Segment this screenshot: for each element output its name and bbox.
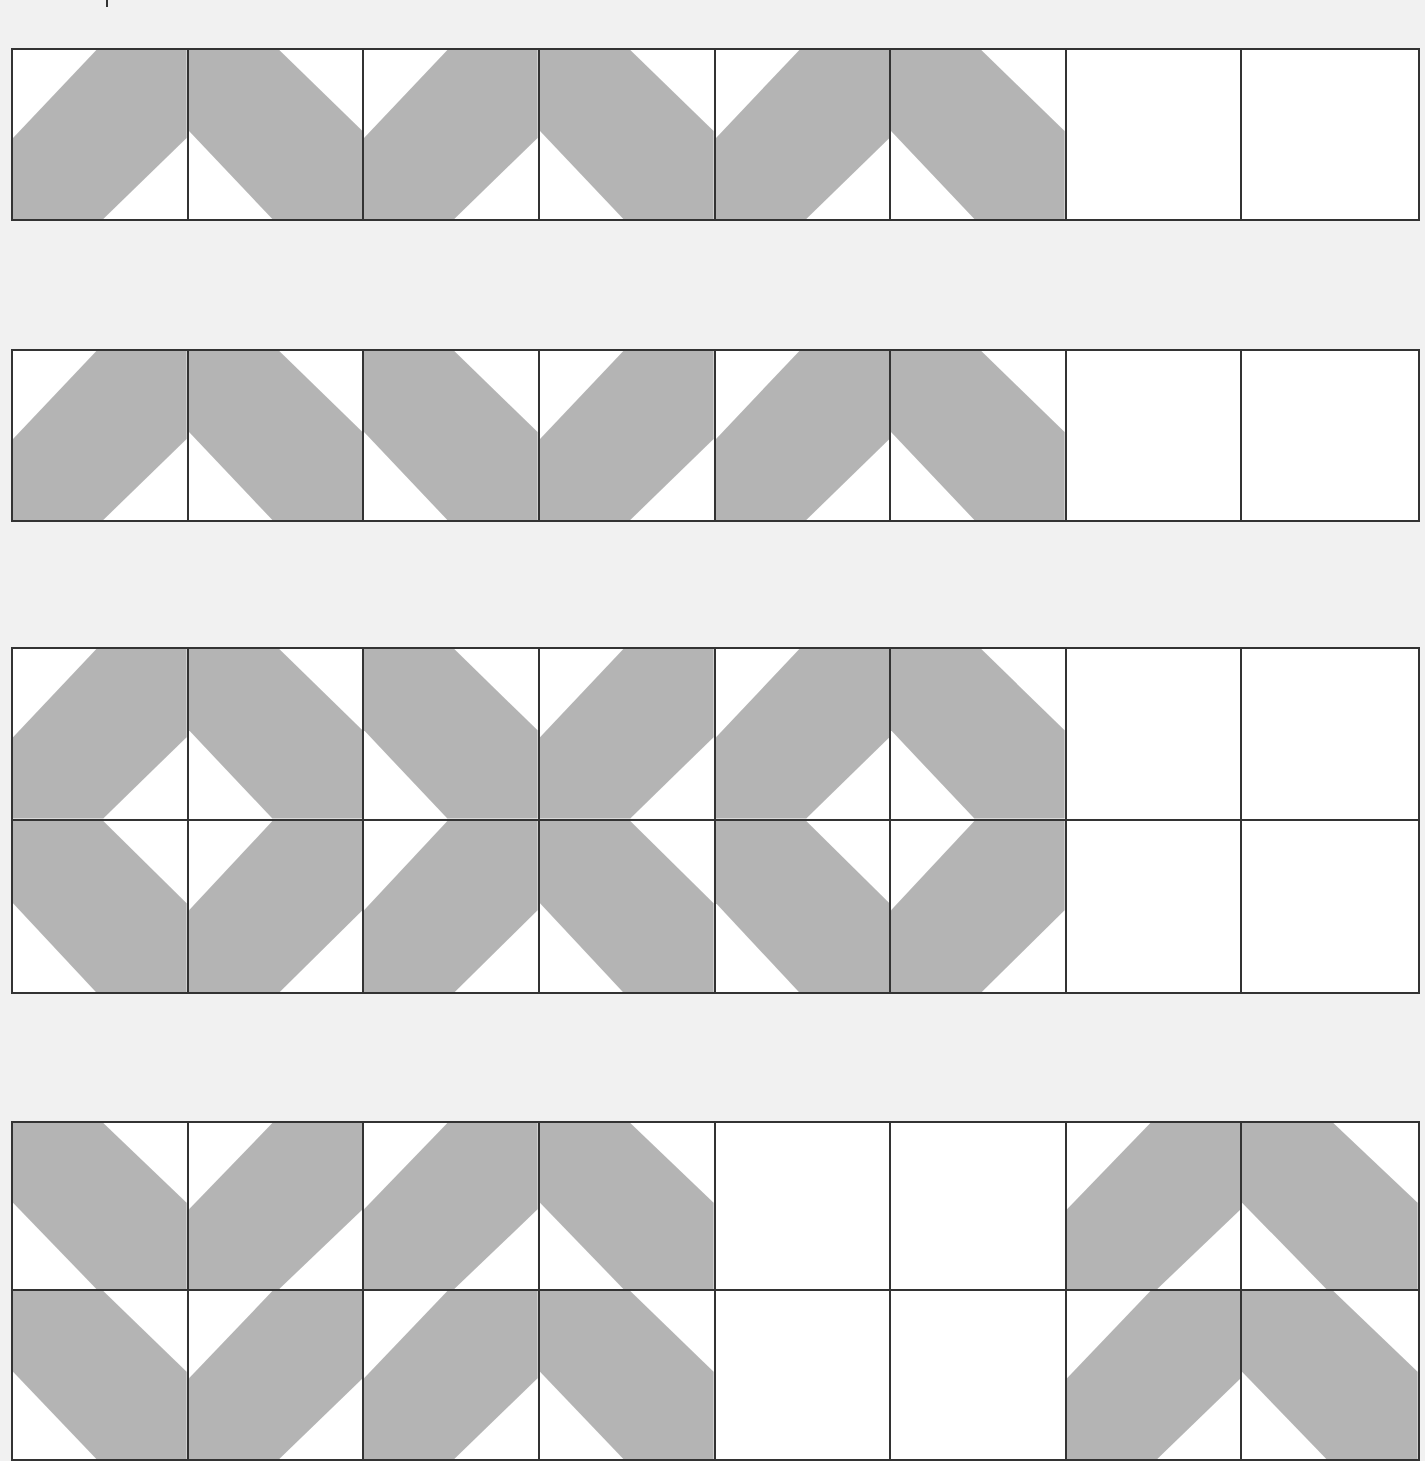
diagonal-band-down-icon <box>189 649 363 819</box>
diagonal-band-down-icon <box>1242 1123 1418 1289</box>
pattern-tile-A <box>540 351 716 520</box>
diagonal-band-down-icon <box>540 1291 714 1459</box>
empty-tile[interactable] <box>1242 351 1418 520</box>
empty-tile[interactable] <box>891 1123 1067 1291</box>
pattern-tile-B <box>540 821 716 993</box>
pattern-strip-4 <box>11 1121 1420 1461</box>
pattern-tile-B <box>364 351 540 520</box>
diagonal-band-down-icon <box>189 50 363 219</box>
diagonal-band-up-icon <box>1067 1291 1241 1459</box>
pattern-tile-B <box>1242 1123 1418 1291</box>
diagonal-band-down-icon <box>540 50 714 219</box>
pattern-tile-A <box>891 821 1067 993</box>
pattern-tile-A <box>13 50 189 219</box>
pattern-tile-B <box>364 649 540 821</box>
pattern-tile-A <box>189 1291 365 1459</box>
diagonal-band-up-icon <box>364 50 538 219</box>
diagonal-band-down-icon <box>891 649 1065 819</box>
pattern-tile-B <box>540 1123 716 1291</box>
empty-tile[interactable] <box>1067 821 1243 993</box>
empty-tile[interactable] <box>1242 821 1418 993</box>
pattern-tile-B <box>189 351 365 520</box>
pattern-tile-B <box>540 50 716 219</box>
diagonal-band-down-icon <box>13 1291 187 1459</box>
diagonal-band-up-icon <box>364 821 538 993</box>
diagonal-band-down-icon <box>13 1123 187 1289</box>
pattern-tile-B <box>716 821 892 993</box>
pattern-strip-1 <box>11 48 1420 221</box>
empty-tile[interactable] <box>716 1291 892 1459</box>
empty-tile[interactable] <box>1242 50 1418 219</box>
empty-tile[interactable] <box>1067 649 1243 821</box>
pattern-tile-A <box>189 1123 365 1291</box>
diagonal-band-up-icon <box>364 1291 538 1459</box>
pattern-tile-A <box>1067 1123 1243 1291</box>
diagonal-band-up-icon <box>716 649 890 819</box>
pattern-tile-B <box>540 1291 716 1459</box>
pattern-tile-A <box>716 649 892 821</box>
pattern-tile-A <box>364 821 540 993</box>
pattern-tile-A <box>364 50 540 219</box>
pattern-tile-A <box>716 50 892 219</box>
diagonal-band-up-icon <box>716 351 890 520</box>
diagonal-band-up-icon <box>1067 1123 1241 1289</box>
diagonal-band-down-icon <box>1242 1291 1418 1459</box>
empty-tile[interactable] <box>1067 351 1243 520</box>
diagonal-band-up-icon <box>891 821 1065 993</box>
pattern-tile-B <box>891 351 1067 520</box>
pattern-tile-B <box>13 1123 189 1291</box>
pattern-tile-B <box>189 50 365 219</box>
empty-tile[interactable] <box>1067 50 1243 219</box>
pattern-tile-A <box>540 649 716 821</box>
pattern-tile-A <box>1067 1291 1243 1459</box>
pattern-tile-A <box>364 1291 540 1459</box>
diagonal-band-up-icon <box>13 50 187 219</box>
diagonal-band-down-icon <box>364 649 538 819</box>
diagonal-band-down-icon <box>540 821 714 993</box>
empty-tile[interactable] <box>891 1291 1067 1459</box>
pattern-tile-B <box>1242 1291 1418 1459</box>
diagonal-band-down-icon <box>13 821 187 993</box>
pattern-tile-A <box>189 821 365 993</box>
empty-tile[interactable] <box>1242 649 1418 821</box>
pattern-tile-A <box>13 649 189 821</box>
pattern-tile-A <box>13 351 189 520</box>
pattern-strip-3 <box>11 647 1420 994</box>
diagonal-band-down-icon <box>716 821 890 993</box>
pattern-tile-B <box>891 50 1067 219</box>
diagonal-band-up-icon <box>189 1291 363 1459</box>
pattern-tile-A <box>364 1123 540 1291</box>
diagonal-band-up-icon <box>13 351 187 520</box>
diagonal-band-down-icon <box>364 351 538 520</box>
pattern-tile-B <box>13 1291 189 1459</box>
pattern-tile-B <box>891 649 1067 821</box>
diagonal-band-up-icon <box>540 351 714 520</box>
pattern-tile-A <box>716 351 892 520</box>
pattern-tile-B <box>189 649 365 821</box>
clipped-text-mark <box>106 0 108 7</box>
pattern-strip-2 <box>11 349 1420 522</box>
diagonal-band-up-icon <box>13 649 187 819</box>
diagonal-band-up-icon <box>189 821 363 993</box>
diagonal-band-down-icon <box>891 50 1065 219</box>
diagonal-band-up-icon <box>189 1123 363 1289</box>
diagonal-band-up-icon <box>540 649 714 819</box>
diagonal-band-down-icon <box>891 351 1065 520</box>
diagonal-band-down-icon <box>189 351 363 520</box>
pattern-tile-B <box>13 821 189 993</box>
diagonal-band-up-icon <box>716 50 890 219</box>
diagonal-band-down-icon <box>540 1123 714 1289</box>
diagonal-band-up-icon <box>364 1123 538 1289</box>
empty-tile[interactable] <box>716 1123 892 1291</box>
